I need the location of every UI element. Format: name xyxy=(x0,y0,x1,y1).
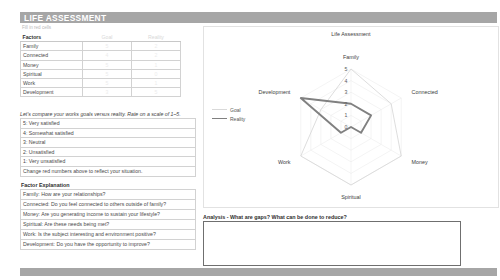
list-item: 4: Somewhat satisfied xyxy=(21,128,196,138)
cell-reality[interactable]: 1 xyxy=(132,79,181,88)
list-item: Development: Do you have the opportunity… xyxy=(21,240,196,250)
svg-text:Development: Development xyxy=(259,89,291,95)
legend-item-goal: Goal xyxy=(212,105,274,114)
legend-item-reality: Reality xyxy=(212,114,274,123)
scale-item: 4: Somewhat satisfied xyxy=(21,128,196,138)
worksheet: LIFE ASSESSMENT Fill in red cells Factor… xyxy=(0,0,500,280)
table-row: Money 5 1 xyxy=(21,60,181,69)
legend-swatch-reality xyxy=(212,118,227,119)
svg-text:1: 1 xyxy=(345,112,348,118)
svg-text:Connected: Connected xyxy=(412,89,438,95)
cell-goal[interactable]: 5 xyxy=(83,69,132,78)
cell-goal[interactable]: 3 xyxy=(83,88,132,97)
cell-reality[interactable]: 0 xyxy=(132,69,181,78)
scale-item: 2: Unsatisfied xyxy=(21,147,196,157)
column-header-factors: Factors xyxy=(21,33,83,42)
column-header-goal: Goal xyxy=(83,33,132,42)
cell-reality[interactable]: 2 xyxy=(132,42,181,51)
column-header-reality: Reality xyxy=(132,33,181,42)
cell-factor: Work xyxy=(21,79,83,88)
svg-text:3: 3 xyxy=(345,89,348,95)
svg-text:0: 0 xyxy=(345,124,348,130)
analysis-title: Analysis - What are gaps? What can be do… xyxy=(203,214,347,220)
rating-instruction: Let's compare your works goals versus re… xyxy=(20,111,195,117)
table-row: Work 5 1 xyxy=(21,79,181,88)
legend-swatch-goal xyxy=(212,109,227,110)
list-item: Connected: Do you feel connected to othe… xyxy=(21,200,196,210)
list-item: 5: Very satisfied xyxy=(21,119,196,129)
explanation-item: Work: Is the subject interesting and env… xyxy=(21,230,196,240)
factor-explanation-table: Family: How are your relationships? Conn… xyxy=(20,189,196,250)
svg-text:5: 5 xyxy=(345,66,348,72)
radar-chart-panel: Life Assessment 012345FamilyConnectedMon… xyxy=(203,26,499,208)
list-item: 2: Unsatisfied xyxy=(21,147,196,157)
fill-instruction: Fill in red cells xyxy=(22,25,51,30)
list-item: Family: How are your relationships? xyxy=(21,190,196,200)
explanation-item: Spiritual: Are these needs being met? xyxy=(21,220,196,230)
explanation-item: Development: Do you have the opportunity… xyxy=(21,240,196,250)
cell-reality[interactable]: 1 xyxy=(132,60,181,69)
list-item: Work: Is the subject interesting and env… xyxy=(21,230,196,240)
factor-explanation-title: Factor Explanation xyxy=(21,182,70,188)
cell-goal[interactable]: 5 xyxy=(83,60,132,69)
legend-label-goal: Goal xyxy=(230,107,241,113)
cell-factor: Money xyxy=(21,60,83,69)
table-header-row: Factors Goal Reality xyxy=(21,33,181,42)
svg-text:Money: Money xyxy=(412,159,428,165)
list-item: 3: Neutral xyxy=(21,138,196,148)
factors-table: Factors Goal Reality Family 5 2 Connecte… xyxy=(20,33,181,97)
scale-item: 1: Very unsatisfied xyxy=(21,157,196,167)
svg-text:2: 2 xyxy=(345,101,348,107)
explanation-item: Money: Are you generating income to sust… xyxy=(21,210,196,220)
cell-factor: Family xyxy=(21,42,83,51)
cell-factor: Spiritual xyxy=(21,69,83,78)
list-item: 1: Very unsatisfied xyxy=(21,157,196,167)
svg-text:Family: Family xyxy=(343,54,359,60)
list-item: Money: Are you generating income to sust… xyxy=(21,210,196,220)
table-row: Spiritual 5 0 xyxy=(21,69,181,78)
svg-text:4: 4 xyxy=(345,78,348,84)
table-row: Family 5 2 xyxy=(21,42,181,51)
cell-goal[interactable]: 5 xyxy=(83,42,132,51)
table-row: Connected 4 2 xyxy=(21,51,181,60)
cell-factor: Connected xyxy=(21,51,83,60)
cell-reality[interactable]: 2 xyxy=(132,51,181,60)
cell-goal[interactable]: 4 xyxy=(83,51,132,60)
explanation-item: Connected: Do you feel connected to othe… xyxy=(21,200,196,210)
bottom-banner xyxy=(20,268,497,276)
svg-text:Work: Work xyxy=(278,159,291,165)
legend-label-reality: Reality xyxy=(230,116,245,122)
scale-item: 3: Neutral xyxy=(21,138,196,148)
cell-reality[interactable]: 5 xyxy=(132,88,181,97)
cell-factor: Development xyxy=(21,88,83,97)
chart-legend: Goal Reality xyxy=(212,105,274,123)
list-item: Spiritual: Are these needs being met? xyxy=(21,220,196,230)
scale-footer-note: Change red numbers above to reflect your… xyxy=(21,166,196,176)
list-item: Change red numbers above to reflect your… xyxy=(21,166,196,176)
analysis-input[interactable] xyxy=(203,221,461,266)
cell-goal[interactable]: 5 xyxy=(83,79,132,88)
table-row: Development 3 5 xyxy=(21,88,181,97)
explanation-item: Family: How are your relationships? xyxy=(21,190,196,200)
rating-scale-table: 5: Very satisfied 4: Somewhat satisfied … xyxy=(20,118,196,177)
svg-text:Spiritual: Spiritual xyxy=(341,194,360,200)
page-title: LIFE ASSESSMENT xyxy=(24,13,106,24)
scale-item: 5: Very satisfied xyxy=(21,119,196,129)
